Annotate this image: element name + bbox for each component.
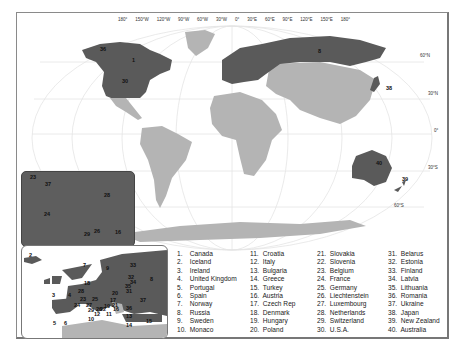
legend-item: 36. Romania <box>388 292 440 300</box>
legend-item: 12. Italy <box>250 258 295 266</box>
lat-label: 30°S <box>428 165 438 170</box>
inset-label: 37 <box>45 181 51 187</box>
legend-item: 21. Slovakia <box>317 250 369 258</box>
legend-item: 10. Monaco <box>177 326 237 334</box>
map-label: 40 <box>376 160 382 166</box>
lon-label: 180° <box>118 17 127 22</box>
inset-label: 37 <box>140 297 146 303</box>
legend-item: 24. France <box>317 275 369 283</box>
legend-item: 9. Sweden <box>177 317 237 325</box>
legend-item: 32. Estonia <box>388 258 440 266</box>
legend-item: 25. Germany <box>317 284 369 292</box>
inset-label: 16 <box>113 306 119 312</box>
legend-item: 39. New Zealand <box>388 317 440 325</box>
legend-column-2: 11. Croatia 12. Italy 13. Bulgaria 14. G… <box>250 250 295 334</box>
longitude-labels: 180° 150°W 120°W 90°W 60°W 30°W 0° 30°E … <box>118 17 350 22</box>
legend-item: 15. Turkey <box>250 284 295 292</box>
lon-label: 180° <box>341 17 350 22</box>
lat-label: 60°S <box>394 203 404 208</box>
europe-map <box>22 246 167 338</box>
inset-label: 8 <box>150 276 153 282</box>
inset-label: 28 <box>104 192 110 198</box>
inset-label: 13 <box>126 313 132 319</box>
legend-item: 38. Japan <box>388 309 440 317</box>
inset-label: 31 <box>126 288 132 294</box>
legend-item: 13. Bulgaria <box>250 267 295 275</box>
legend-item: 29. Switzerland <box>317 317 369 325</box>
legend-item: 14. Greece <box>250 275 295 283</box>
inset-label: 16 <box>115 229 121 235</box>
legend-item: 1. Canada <box>177 250 237 258</box>
map-label: 36 <box>100 46 106 52</box>
lon-label: 60°E <box>265 17 275 22</box>
inset-label: 33 <box>130 262 136 268</box>
inset-label: 7 <box>83 262 86 268</box>
lon-label: 60°W <box>197 17 208 22</box>
legend-item: 18. Denmark <box>250 309 295 317</box>
legend-item: 26. Liechtenstein <box>317 292 369 300</box>
inset-label: 29 <box>84 231 90 237</box>
inset-label: 10 <box>88 316 94 322</box>
lat-label: 0° <box>434 128 438 133</box>
lon-label: 0° <box>235 17 239 22</box>
inset-label: 4 <box>68 292 71 298</box>
legend-item: 34. Latvia <box>388 275 440 283</box>
lon-label: 150°W <box>135 17 149 22</box>
map-label: 30 <box>122 78 128 84</box>
inset-label: 18 <box>84 280 90 286</box>
map-label: 1 <box>132 57 135 63</box>
lon-label: 30°W <box>216 17 227 22</box>
legend-item: 22. Slovenia <box>317 258 369 266</box>
lon-label: 120°E <box>300 17 312 22</box>
legend-item: 11. Croatia <box>250 250 295 258</box>
lon-label: 90°E <box>283 17 293 22</box>
legend-item: 4. United Kingdom <box>177 275 237 283</box>
asia-land <box>266 62 376 124</box>
legend-item: 6. Spain <box>177 292 237 300</box>
north-america-highlight <box>82 42 172 100</box>
europe-inset <box>21 245 168 339</box>
dark-inset-box <box>21 171 135 247</box>
lat-label: 30°N <box>428 91 438 96</box>
inset-label: 24 <box>74 302 80 308</box>
legend-item: 30. U.S.A. <box>317 326 369 334</box>
legend-item: 33. Finland <box>388 267 440 275</box>
lon-label: 90°W <box>178 17 189 22</box>
antarctica <box>120 220 366 242</box>
greenland <box>185 30 215 56</box>
legend-item: 28. Netherlands <box>317 309 369 317</box>
inset-label: 5 <box>53 320 56 326</box>
inset-label: 2 <box>29 252 32 258</box>
legend-item: 35. Lithuania <box>388 284 440 292</box>
legend-item: 7. Norway <box>177 300 237 308</box>
legend-item: 19. Hungary <box>250 317 295 325</box>
legend-item: 27. Luxembourg <box>317 300 369 308</box>
legend-item: 37. Ukraine <box>388 300 440 308</box>
inset-label: 11 <box>106 311 112 317</box>
legend-column-1: 1. Canada 2. Iceland 3. Ireland 4. Unite… <box>177 250 237 334</box>
inset-label: 12 <box>94 311 100 317</box>
legend-item: 31. Belarus <box>388 250 440 258</box>
legend-item: 40. Australia <box>388 326 440 334</box>
inset-label: 6 <box>64 320 67 326</box>
inset-label: 26 <box>94 228 100 234</box>
map-label: 39 <box>402 176 408 182</box>
inset-label: 15 <box>146 318 152 324</box>
inset-label: 20 <box>112 290 118 296</box>
legend-item: 8. Russia <box>177 309 237 317</box>
legend-item: 3. Ireland <box>177 267 237 275</box>
legend-item: 23. Belgium <box>317 267 369 275</box>
inset-label: 9 <box>106 265 109 271</box>
legend-item: 16. Austria <box>250 292 295 300</box>
africa <box>210 92 282 176</box>
map-label: 8 <box>318 48 321 54</box>
inset-label: 28 <box>78 288 84 294</box>
inset-label: 3 <box>52 292 55 298</box>
legend-item: 17. Czech Rep <box>250 300 295 308</box>
inset-label: 24 <box>44 211 50 217</box>
legend-item: 2. Iceland <box>177 258 237 266</box>
lat-label: 60°N <box>420 53 430 58</box>
inset-label: 36 <box>126 305 132 311</box>
legend-column-4: 31. Belarus 32. Estonia 33. Finland 34. … <box>388 250 440 334</box>
map-label: 38 <box>386 85 392 91</box>
